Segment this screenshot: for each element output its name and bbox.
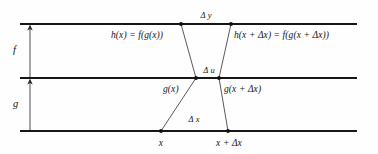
g-axis-label: g	[13, 99, 18, 110]
diagram-canvas	[0, 0, 378, 154]
g-of-x-label: g(x)	[163, 85, 179, 95]
point-g-of-x-plus-dx	[217, 76, 221, 80]
delta-u-label: Δ u	[203, 66, 215, 75]
chain-rule-figure: f g Δ y Δ u Δ x h(x) = f(g(x)) h(x + Δx)…	[0, 0, 378, 154]
g-of-x-plus-dx-label: g(x + Δx)	[224, 85, 261, 95]
connector-gx-to-hx	[181, 24, 196, 78]
f-span-arrow	[27, 24, 32, 77]
h-of-x-plus-dx-label: h(x + Δx) = f(g(x + Δx))	[234, 31, 329, 41]
delta-y-label: Δ y	[200, 11, 211, 20]
point-h-of-x	[179, 22, 183, 26]
point-h-of-x-plus-dx	[229, 22, 233, 26]
point-x-plus-dx	[226, 129, 230, 133]
point-x	[159, 129, 163, 133]
x-plus-dx-tick-label: x + Δx	[216, 139, 242, 149]
f-axis-label: f	[13, 45, 16, 56]
x-tick-label: x	[159, 139, 163, 149]
h-of-x-label: h(x) = f(g(x))	[111, 31, 163, 41]
delta-x-label: Δ x	[188, 115, 199, 124]
g-span-arrow	[27, 78, 32, 130]
connector-gxdx-to-hxdx	[219, 24, 231, 78]
point-g-of-x	[194, 76, 198, 80]
